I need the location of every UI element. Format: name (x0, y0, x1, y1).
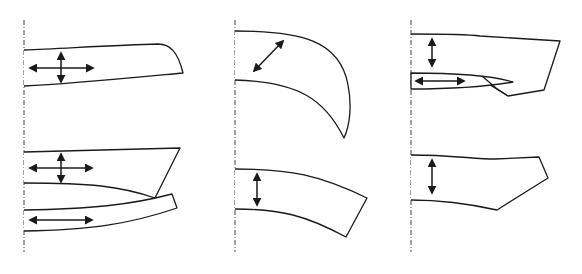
piece-5 (235, 169, 367, 237)
piece-3 (24, 194, 177, 231)
piece-1 (24, 44, 183, 86)
diagram-svg (0, 0, 582, 274)
piece-6 (411, 34, 560, 96)
pattern-diagram (0, 0, 582, 274)
piece-7 (411, 155, 548, 210)
piece-4 (235, 31, 350, 138)
piece-2 (24, 148, 180, 198)
